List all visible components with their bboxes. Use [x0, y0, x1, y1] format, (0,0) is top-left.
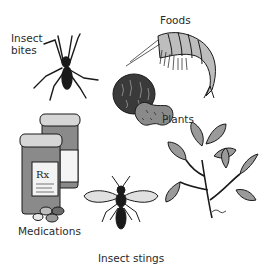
label-foods: Foods: [160, 14, 191, 26]
label-insect-bites-line2: bites: [11, 44, 43, 56]
label-medications: Medications: [18, 225, 81, 237]
label-plants: Plants: [162, 113, 194, 125]
spider-icon: [34, 34, 98, 100]
label-insect-bites-line1: Insect: [11, 32, 43, 44]
wasp-icon: [84, 176, 158, 229]
medication-bottles-icon: Rx: [20, 114, 80, 222]
svg-text:Rx: Rx: [36, 169, 50, 180]
label-insect-stings: Insect stings: [98, 252, 164, 264]
label-insect-bites: Insect bites: [11, 32, 43, 56]
plant-icon: [166, 122, 258, 218]
